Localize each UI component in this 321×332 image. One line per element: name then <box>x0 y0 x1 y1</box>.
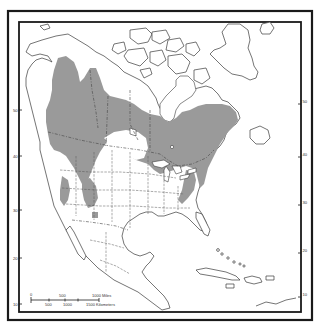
scale-miles-500: 500 <box>59 293 66 298</box>
range-map: 50 40 30 20 10 50 40 30 20 10 0 500 1000… <box>0 0 321 332</box>
lat-label-right-40: 40 <box>303 152 308 157</box>
lat-label-left-40: 40 <box>13 154 18 159</box>
scale-bar: 0 500 1000 Miles 500 1000 1500 Kilometer… <box>30 292 115 307</box>
greenland-landmass <box>210 24 258 80</box>
lat-label-right-30: 30 <box>303 200 308 205</box>
scale-miles-0: 0 <box>30 292 33 297</box>
map-canvas: 50 40 30 20 10 50 40 30 20 10 0 500 1000… <box>0 0 321 332</box>
caribbean-islands <box>196 249 296 306</box>
newfoundland-island <box>250 126 270 144</box>
lat-label-left-30: 30 <box>13 208 18 213</box>
lat-label-right-10: 10 <box>303 292 308 297</box>
lat-label-left-50: 50 <box>13 108 18 113</box>
scale-km-500: 500 <box>45 302 52 307</box>
scale-km-1500: 1500 Kilometers <box>86 302 115 307</box>
lat-label-right-20: 20 <box>303 248 308 253</box>
lat-label-right-50: 50 <box>303 99 308 104</box>
lat-label-left-20: 20 <box>13 256 18 261</box>
scale-miles-1000: 1000 Miles <box>92 293 111 298</box>
lat-label-left-10: 10 <box>13 302 18 307</box>
range-southwest-patch <box>92 212 98 218</box>
iceland-landmass <box>260 22 274 34</box>
scale-km-1000: 1000 <box>63 302 73 307</box>
